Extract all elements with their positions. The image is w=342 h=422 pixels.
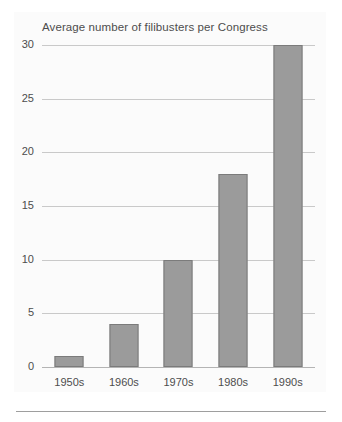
bar-1960s[interactable]: [109, 324, 138, 367]
bar-slot: [206, 45, 261, 367]
bar-slot: [151, 45, 206, 367]
gridline-0: [42, 367, 315, 368]
x-tick-label: 1980s: [206, 376, 261, 388]
bar-slot: [97, 45, 152, 367]
chart-figure: Average number of filibusters per Congre…: [0, 0, 342, 422]
footer-divider: [16, 411, 326, 412]
x-tick-label: 1970s: [151, 376, 206, 388]
plot-area: 051015202530 1950s1960s1970s1980s1990s: [42, 45, 315, 367]
bar-1970s[interactable]: [164, 260, 193, 367]
bar-series: [42, 45, 315, 367]
bar-1950s[interactable]: [55, 356, 84, 367]
y-tick-label: 5: [8, 306, 34, 318]
y-tick-label: 20: [8, 145, 34, 157]
x-tick-label: 1950s: [42, 376, 97, 388]
bar-slot: [260, 45, 315, 367]
y-tick-label: 10: [8, 253, 34, 265]
bar-1990s[interactable]: [273, 45, 302, 367]
x-tick-label: 1990s: [260, 376, 315, 388]
chart-title: Average number of filibusters per Congre…: [42, 21, 268, 33]
bar-slot: [42, 45, 97, 367]
y-tick-label: 25: [8, 92, 34, 104]
y-tick-label: 15: [8, 199, 34, 211]
y-tick-label: 0: [8, 360, 34, 372]
bar-1980s[interactable]: [219, 174, 248, 367]
x-tick-label: 1960s: [97, 376, 152, 388]
y-tick-label: 30: [8, 38, 34, 50]
